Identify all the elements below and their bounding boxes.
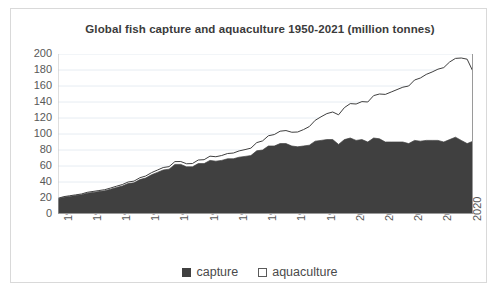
capture-area bbox=[58, 137, 473, 214]
legend-item-capture: capture bbox=[182, 265, 238, 279]
y-axis-tick-label: 160 bbox=[18, 80, 52, 91]
y-axis-tick-label: 0 bbox=[18, 208, 52, 219]
y-axis-tick-label: 60 bbox=[18, 160, 52, 171]
y-axis-tick-label: 40 bbox=[18, 176, 52, 187]
chart-frame: Global fish capture and aquaculture 1950… bbox=[10, 8, 487, 283]
capture-swatch bbox=[182, 268, 191, 277]
stacked-area-plot bbox=[58, 54, 473, 214]
x-axis-tick-label: 2020 bbox=[472, 197, 483, 221]
y-axis-tick-label: 140 bbox=[18, 96, 52, 107]
y-axis-tick-label: 120 bbox=[18, 112, 52, 123]
chart-title: Global fish capture and aquaculture 1950… bbox=[11, 23, 498, 35]
plot-area bbox=[58, 54, 473, 214]
legend-item-aquaculture: aquaculture bbox=[258, 265, 337, 279]
y-axis-tick-label: 200 bbox=[18, 48, 52, 59]
y-axis-tick-label: 100 bbox=[18, 128, 52, 139]
legend-label-capture: capture bbox=[196, 265, 238, 279]
legend-label-aquaculture: aquaculture bbox=[272, 265, 337, 279]
aquaculture-swatch bbox=[258, 268, 267, 277]
y-axis-tick-label: 20 bbox=[18, 192, 52, 203]
chart-legend: capture aquaculture bbox=[11, 265, 498, 279]
y-axis-tick-label: 180 bbox=[18, 64, 52, 75]
y-axis-tick-label: 80 bbox=[18, 144, 52, 155]
